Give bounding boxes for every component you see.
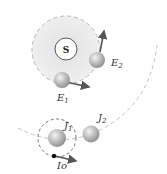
jupiter-j2 [83, 126, 100, 143]
jupiter-j1 [48, 129, 66, 147]
j2-label: J2 [96, 112, 107, 125]
earth-e2 [89, 52, 105, 68]
e1-label: E1 [56, 92, 69, 105]
j1-label: J1 [62, 120, 72, 133]
orbit-diagram: S E2 E1 J1 J2 Io [0, 0, 167, 174]
e2-label: E2 [110, 57, 123, 70]
earth-e1 [54, 72, 70, 88]
io-label: Io [56, 160, 67, 171]
io-moon [52, 154, 56, 158]
sun-label: S [63, 45, 70, 55]
e2-velocity-arrow [100, 31, 104, 52]
